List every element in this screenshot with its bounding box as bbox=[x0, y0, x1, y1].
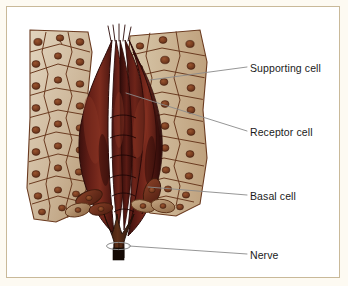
callout-label-basal-cell: Basal cell bbox=[250, 191, 296, 202]
figure-root: Supporting cell Receptor cell Basal cell… bbox=[0, 0, 348, 286]
callout-label-nerve: Nerve bbox=[250, 250, 279, 261]
leader-line-nerve bbox=[129, 246, 247, 254]
callout-label-supporting-cell: Supporting cell bbox=[250, 63, 321, 74]
callout-label-receptor-cell: Receptor cell bbox=[250, 127, 313, 138]
receptor-microvilli bbox=[108, 24, 131, 41]
taste-bud-illustration bbox=[0, 0, 348, 286]
